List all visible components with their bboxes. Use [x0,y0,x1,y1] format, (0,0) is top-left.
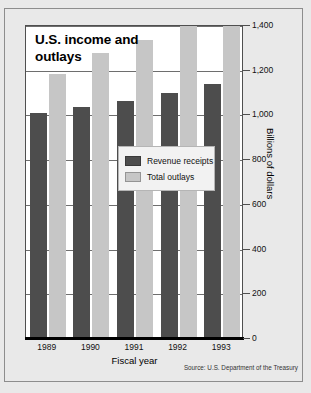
y-tick-600 [243,204,250,205]
x-axis-line [25,337,244,340]
x-tick-label-1993: 1993 [212,342,231,352]
y-tick-1200 [243,70,250,71]
y-tick-200 [243,293,250,294]
y-tick-0 [243,338,250,339]
bar-total-outlays-1993 [223,25,240,337]
y-tick-label-0: 0 [252,333,257,343]
y-tick-label-1000: 1,000 [252,109,273,119]
y-tick-label-200: 200 [252,288,266,298]
x-axis-tick-labels: 19891990199119921993 [25,342,244,356]
x-tick-label-1991: 1991 [125,342,144,352]
y-tick-label-600: 600 [252,199,266,209]
legend-swatch-outlays [125,172,141,182]
y-axis-title: Billions of dollars [265,128,276,199]
y-tick-label-400: 400 [252,244,266,254]
y-tick-label-1200: 1,200 [252,65,273,75]
y-axis-ticks [243,25,252,339]
legend-item-outlays: Total outlays [125,169,210,184]
y-tick-label-1400: 1,400 [252,20,273,30]
x-tick-label-1990: 1990 [81,342,100,352]
legend-label-revenue: Revenue receipts [147,156,213,166]
x-tick-label-1989: 1989 [37,342,56,352]
y-tick-400 [243,249,250,250]
legend-swatch-revenue [125,156,141,166]
chart-figure: U.S. income and outlays Revenue receipts… [0,0,311,393]
chart-title: U.S. income and outlays [35,32,175,66]
x-tick-label-1992: 1992 [168,342,187,352]
bar-revenue-receipts-1993 [204,84,221,337]
legend-label-outlays: Total outlays [147,172,194,182]
y-tick-800 [243,159,250,160]
legend-item-revenue: Revenue receipts [125,153,210,168]
y-tick-1400 [243,25,250,26]
source-note: Source: U.S. Department of the Treasury [150,364,298,371]
chart-legend: Revenue receiptsTotal outlays [118,146,215,191]
y-tick-1000 [243,114,250,115]
